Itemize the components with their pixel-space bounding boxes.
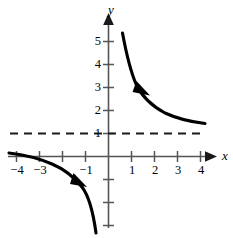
y-tick-label-2: 2 bbox=[88, 103, 101, 118]
y-tick-label-3: 3 bbox=[88, 80, 101, 95]
x-axis-arrowhead bbox=[205, 151, 217, 162]
graph-canvas bbox=[0, 0, 233, 238]
x-tick-label-4: 4 bbox=[193, 163, 209, 178]
x-tick-label-3: 3 bbox=[170, 163, 186, 178]
x-tick-label--3: −3 bbox=[31, 163, 49, 178]
y-tick-label-1: 1 bbox=[88, 126, 101, 141]
upper-right-branch-curve bbox=[123, 33, 206, 124]
y-tick-label-5: 5 bbox=[88, 34, 101, 49]
x-tick-label-2: 2 bbox=[147, 163, 163, 178]
y-tick-label-4: 4 bbox=[88, 57, 101, 72]
x-tick-label--1: −1 bbox=[77, 163, 95, 178]
function-graph-figure: 5 4 3 2 1 −4 −3 −1 1 2 3 4 y x bbox=[0, 0, 233, 238]
y-axis-label: y bbox=[104, 2, 118, 18]
x-tick-label--4: −4 bbox=[8, 163, 26, 178]
x-tick-label-1: 1 bbox=[124, 163, 140, 178]
x-axis-label: x bbox=[219, 148, 231, 164]
